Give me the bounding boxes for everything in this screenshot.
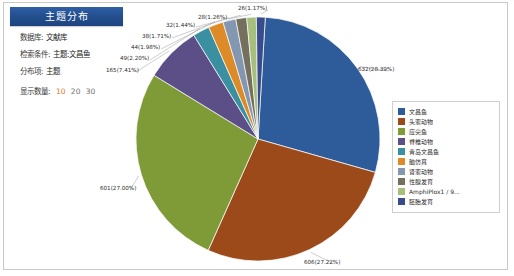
legend-color-swatch xyxy=(398,128,405,135)
legend-label: 青岛文昌鱼 xyxy=(409,147,439,156)
pie-slice-label: 601(27.00%) xyxy=(100,185,136,191)
legend-label: 肾索动物 xyxy=(409,167,433,176)
chart-area: 632(28.39%)606(27.22%)601(27.00%)165(7.4… xyxy=(130,3,509,271)
dimension-label: 分布项: xyxy=(20,67,44,76)
legend-item[interactable]: 脑仿真 xyxy=(398,157,495,166)
database-label: 数据库: xyxy=(20,33,44,42)
pie-slice-label: 26(1.17%) xyxy=(238,5,267,11)
legend-item[interactable]: 青岛文昌鱼 xyxy=(398,147,495,156)
legend-color-swatch xyxy=(398,198,405,205)
pie-slice-label: 38(1.71%) xyxy=(142,33,171,39)
legend-label: 应尖鱼 xyxy=(409,127,427,136)
pie-slice-label: 44(1.98%) xyxy=(131,44,160,50)
legend-item[interactable]: 肾索动物 xyxy=(398,167,495,176)
legend-label: 头索动物 xyxy=(409,117,433,126)
legend-item[interactable]: AmphiPlox1 / 9... xyxy=(398,187,495,196)
query-label: 检索条件: xyxy=(20,50,51,59)
pie-slice-label: 49(2.20%) xyxy=(120,55,149,61)
count-label: 显示数量: xyxy=(20,87,51,96)
pie-svg xyxy=(130,9,388,267)
panel-body: 数据库: 文献库 检索条件: 主题:文昌鱼 分布项: 主题 显示数量: 10 2… xyxy=(10,26,130,96)
pie-slice-label: 32(1.44%) xyxy=(166,22,195,28)
info-row-count: 显示数量: 10 20 30 xyxy=(20,87,130,96)
legend-label: 文昌鱼 xyxy=(409,107,427,116)
legend-label: 脑仿真 xyxy=(409,157,427,166)
pie-slice-label: 632(28.39%) xyxy=(358,66,394,72)
chart-legend: 文昌鱼头索动物应尖鱼脊椎动物青岛文昌鱼脑仿真肾索动物性腺发育AmphiPlox1… xyxy=(392,101,500,213)
info-row-database: 数据库: 文献库 xyxy=(20,33,130,42)
info-row-query: 检索条件: 主题:文昌鱼 xyxy=(20,50,130,59)
legend-color-swatch xyxy=(398,108,405,115)
legend-item[interactable]: 应尖鱼 xyxy=(398,127,495,136)
screenshot-root: 主题分布 数据库: 文献库 检索条件: 主题:文昌鱼 分布项: 主题 显示数量:… xyxy=(0,0,514,276)
legend-color-swatch xyxy=(398,118,405,125)
legend-color-swatch xyxy=(398,178,405,185)
pie-slice-label: 28(1.26%) xyxy=(198,14,227,20)
legend-color-swatch xyxy=(398,148,405,155)
count-option-20[interactable]: 20 xyxy=(71,87,81,96)
legend-item[interactable]: 头索动物 xyxy=(398,117,495,126)
legend-item[interactable]: 文昌鱼 xyxy=(398,107,495,116)
legend-item[interactable]: 性腺发育 xyxy=(398,177,495,186)
legend-color-swatch xyxy=(398,138,405,145)
panel-title: 主题分布 xyxy=(10,7,123,26)
legend-color-swatch xyxy=(398,188,405,195)
dimension-value: 主题 xyxy=(46,67,60,76)
legend-label: 胚胎发育 xyxy=(409,197,433,206)
pie-slice-group xyxy=(136,17,380,261)
info-panel: 主题分布 数据库: 文献库 检索条件: 主题:文昌鱼 分布项: 主题 显示数量:… xyxy=(10,7,130,107)
pie-chart: 632(28.39%)606(27.22%)601(27.00%)165(7.4… xyxy=(130,9,388,267)
legend-item[interactable]: 胚胎发育 xyxy=(398,197,495,206)
count-option-30[interactable]: 30 xyxy=(86,87,96,96)
report-card: 主题分布 数据库: 文献库 检索条件: 主题:文昌鱼 分布项: 主题 显示数量:… xyxy=(3,2,508,270)
pie-slice-label: 606(27.22%) xyxy=(304,259,340,265)
pie-slice-label: 165(7.41%) xyxy=(106,67,139,73)
database-value: 文献库 xyxy=(46,33,67,42)
query-value: 主题:文昌鱼 xyxy=(53,50,91,59)
count-option-10[interactable]: 10 xyxy=(56,87,66,96)
legend-color-swatch xyxy=(398,168,405,175)
legend-item[interactable]: 脊椎动物 xyxy=(398,137,495,146)
legend-label: AmphiPlox1 / 9... xyxy=(409,188,460,195)
legend-color-swatch xyxy=(398,158,405,165)
legend-label: 脊椎动物 xyxy=(409,137,433,146)
legend-label: 性腺发育 xyxy=(409,177,433,186)
